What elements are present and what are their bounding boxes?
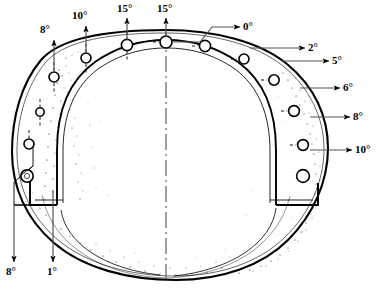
arch-foot-right (276, 183, 318, 205)
diagram-svg (0, 0, 389, 290)
diagram-canvas: 8° 10° 15° 15° 0° 2° 5° 6° 8° 10° 8° 1° (0, 0, 389, 290)
hole-tl-1 (49, 72, 59, 82)
hole-tl-4 (21, 170, 33, 182)
hole-leader-ticks (29, 32, 296, 145)
hole-tl-2 (36, 108, 44, 116)
hole-tr-1 (239, 54, 249, 64)
hole-top-1 (81, 53, 91, 63)
label-deg-2-right: 2° (308, 42, 318, 53)
hole-top-2 (121, 39, 132, 50)
hole-top-4 (199, 40, 210, 51)
label-deg-10-right: 10° (355, 144, 370, 155)
hole-tr-3 (289, 106, 300, 117)
hole-top-3 (160, 36, 172, 48)
label-deg-8-bottom: 8° (6, 266, 16, 277)
label-deg-1-bottom: 1° (47, 266, 57, 277)
hole-tl-3 (24, 139, 34, 149)
hole-tr-4 (298, 140, 309, 151)
stipple-texture-bottom (33, 193, 258, 276)
label-deg-15-center: 15° (157, 3, 172, 14)
label-deg-6-right: 6° (343, 82, 353, 93)
label-deg-10-top-left: 10° (72, 10, 87, 21)
basin-curve-left (61, 210, 160, 275)
label-deg-8-top-left: 8° (40, 24, 50, 35)
hole-tr-5 (297, 170, 310, 183)
label-deg-8-right: 8° (353, 111, 363, 122)
label-deg-15-left: 15° (117, 3, 132, 14)
hole-group (21, 36, 310, 182)
outer-shell-contour (12, 30, 328, 280)
label-deg-0-right: 0° (243, 21, 253, 32)
label-deg-5-right: 5° (332, 55, 342, 66)
hole-tr-2 (269, 75, 279, 85)
